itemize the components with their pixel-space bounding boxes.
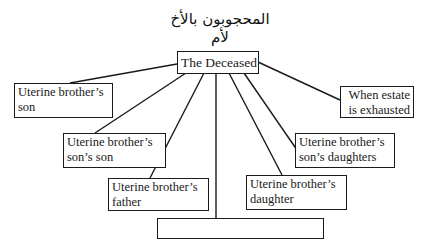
node-line1: Uterine brother’s — [67, 135, 162, 150]
node-estate-exhausted: When estate is exhausted — [340, 86, 414, 118]
node-line2: father — [112, 195, 205, 210]
node-brothers-father: Uterine brother’s father — [108, 178, 209, 211]
node-line1: Uterine brother’s — [18, 85, 109, 100]
node-line2: son’s daughters — [299, 150, 391, 165]
diagram-title: المحجوبون بالأخ لأم — [170, 10, 270, 46]
node-line2: son — [18, 100, 109, 115]
node-brothers-grandfather: Uterine brother’s grandfather — [157, 218, 324, 239]
node-line1: Uterine brother’s — [112, 180, 205, 195]
root-label: The Deceased — [181, 55, 257, 70]
edge-root-daughter — [229, 73, 282, 175]
node-line2: daughter — [250, 192, 343, 207]
node-line2: is exhausted — [344, 103, 410, 118]
node-line1: Uterine brother’s — [299, 135, 391, 150]
node-line1: When estate — [344, 88, 410, 103]
node-line2: son’s son — [67, 150, 162, 165]
node-brothers-sons-daughters: Uterine brother’s son’s daughters — [295, 133, 395, 168]
edge-root-estate — [258, 62, 340, 100]
node-line1: Uterine brother’s — [250, 177, 343, 192]
node-brothers-sons-son: Uterine brother’s son’s son — [63, 133, 166, 168]
node-brothers-daughter: Uterine brother’s daughter — [246, 175, 347, 210]
root-node-deceased: The Deceased — [177, 51, 259, 74]
node-brothers-son: Uterine brother’s son — [14, 83, 113, 118]
edge-root-sons-daughters — [244, 73, 297, 150]
edge-root-son — [70, 64, 177, 83]
